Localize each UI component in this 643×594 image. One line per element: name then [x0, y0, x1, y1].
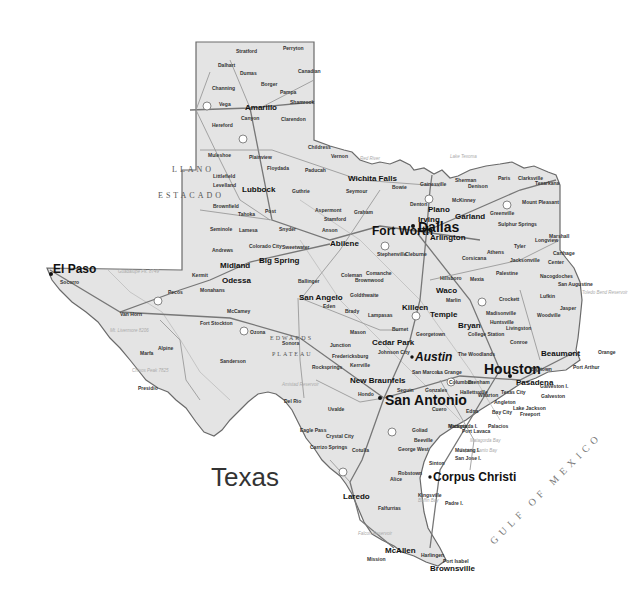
city-amarillo[interactable]: Amarillo — [245, 103, 277, 112]
city-austin[interactable]: Austin — [414, 350, 452, 364]
city-mission[interactable]: Mission — [367, 556, 386, 562]
city-odessa[interactable]: Odessa — [222, 276, 251, 285]
svg-text:Muleshoe: Muleshoe — [208, 152, 231, 158]
city-plano[interactable]: Plano — [428, 205, 450, 214]
city-el-paso[interactable]: El Paso — [53, 262, 96, 276]
city-big-spring[interactable]: Big Spring — [259, 256, 300, 265]
svg-text:Pecos: Pecos — [168, 289, 183, 295]
svg-text:Shamrock: Shamrock — [290, 99, 314, 105]
city-galveston[interactable]: Galveston — [541, 393, 565, 399]
city-laredo[interactable]: Laredo — [343, 492, 370, 501]
city-georgetown[interactable]: Georgetown — [416, 331, 445, 337]
city-texas-city[interactable]: Texas City — [501, 389, 526, 395]
svg-text:Brownwood: Brownwood — [355, 277, 384, 283]
region-label-estacado: ESTACADO — [158, 191, 224, 200]
city-garland[interactable]: Garland — [455, 212, 485, 221]
city-pasadena[interactable]: Pasadena — [516, 378, 554, 387]
svg-text:Pampa: Pampa — [280, 89, 297, 95]
svg-text:Angleton: Angleton — [494, 399, 516, 405]
svg-text:Mason: Mason — [350, 329, 366, 335]
svg-text:Kerrville: Kerrville — [350, 362, 370, 368]
svg-text:Levelland: Levelland — [213, 182, 236, 188]
padre-island-label: Padre I. — [445, 500, 464, 506]
city-fort-worth[interactable]: Fort Worth — [372, 224, 433, 238]
svg-text:Presidio: Presidio — [138, 385, 158, 391]
svg-text:Carrizo Springs: Carrizo Springs — [310, 444, 347, 450]
city-killeen[interactable]: Killeen — [402, 303, 428, 312]
city-lufkin[interactable]: Lufkin — [540, 293, 555, 299]
city-harlingen[interactable]: Harlingen — [421, 552, 444, 558]
svg-text:Perryton: Perryton — [283, 45, 304, 51]
city-mcallen[interactable]: McAllen — [385, 546, 416, 555]
city-corpus-christi[interactable]: Corpus Christi — [433, 470, 516, 484]
city-kingsville[interactable]: Kingsville — [418, 492, 442, 498]
svg-text:Freeport: Freeport — [520, 411, 541, 417]
city-port-arthur[interactable]: Port Arthur — [573, 364, 600, 370]
shield-i40 — [203, 102, 211, 110]
svg-text:Sonora: Sonora — [282, 340, 299, 346]
city-new-braunfels[interactable]: New Braunfels — [350, 376, 406, 385]
city-mckinney[interactable]: McKinney — [452, 197, 476, 203]
city-cedar-park[interactable]: Cedar Park — [372, 338, 415, 347]
svg-text:Mount Pleasant: Mount Pleasant — [522, 199, 559, 205]
city-san-angelo[interactable]: San Angelo — [299, 293, 343, 302]
svg-text:Tahoka: Tahoka — [238, 211, 255, 217]
city-irving[interactable]: Irving — [418, 215, 440, 224]
svg-text:Andrews: Andrews — [212, 247, 233, 253]
gulf-of-mexico-label: GULF OF MEXICO — [488, 430, 604, 546]
svg-text:Center: Center — [548, 259, 564, 265]
svg-text:Greenville: Greenville — [490, 210, 514, 216]
svg-text:Childress: Childress — [308, 144, 331, 150]
svg-text:Monahans: Monahans — [200, 287, 225, 293]
city-nacogdoches[interactable]: Nacogdoches — [540, 273, 573, 279]
city-beaumont[interactable]: Beaumont — [541, 349, 580, 358]
svg-text:Comanche: Comanche — [366, 270, 392, 276]
city-paris[interactable]: Paris — [498, 175, 510, 181]
svg-text:Goldthwaite: Goldthwaite — [350, 292, 379, 298]
city-temple[interactable]: Temple — [430, 310, 458, 319]
svg-text:Ballinger: Ballinger — [298, 278, 319, 284]
city-denton[interactable]: Denton — [410, 201, 427, 207]
svg-text:Livingston: Livingston — [506, 325, 531, 331]
svg-text:Crockett: Crockett — [499, 296, 520, 302]
svg-text:Sweetwater: Sweetwater — [282, 244, 310, 250]
svg-text:Beeville: Beeville — [414, 437, 433, 443]
svg-text:Seymour: Seymour — [346, 188, 367, 194]
city-midland[interactable]: Midland — [220, 261, 250, 270]
svg-text:Colorado City: Colorado City — [249, 243, 282, 249]
city-del-rio[interactable]: Del Rio — [284, 398, 301, 404]
city-tyler[interactable]: Tyler — [514, 243, 526, 249]
svg-text:Brownfield: Brownfield — [213, 203, 239, 209]
chisos-peak-label: Chisos Peak 7825 — [132, 368, 169, 373]
svg-text:Denison: Denison — [468, 183, 488, 189]
shield-i35-central — [412, 312, 420, 320]
svg-text:Gonzales: Gonzales — [425, 387, 447, 393]
city-wichita-falls[interactable]: Wichita Falls — [348, 174, 397, 183]
city-lubbock[interactable]: Lubbock — [242, 185, 276, 194]
svg-text:Rocksprings: Rocksprings — [312, 364, 343, 370]
svg-text:Bay City: Bay City — [492, 409, 512, 415]
city-abilene[interactable]: Abilene — [330, 239, 359, 248]
svg-text:San Augustine: San Augustine — [558, 281, 593, 287]
svg-text:Wharton: Wharton — [478, 392, 498, 398]
city-waco[interactable]: Waco — [436, 286, 457, 295]
city-the-woodlands[interactable]: The Woodlands — [458, 351, 495, 357]
city-arlington[interactable]: Arlington — [430, 233, 466, 242]
svg-text:Fort Stockton: Fort Stockton — [200, 320, 233, 326]
city-cleburne[interactable]: Cleburne — [405, 251, 427, 257]
svg-text:Eden: Eden — [323, 303, 335, 309]
svg-text:Anson: Anson — [322, 227, 338, 233]
region-label-plateau: PLATEAU — [272, 351, 313, 357]
svg-text:Corsicana: Corsicana — [462, 255, 486, 261]
city-bryan[interactable]: Bryan — [458, 321, 481, 330]
city-brownsville[interactable]: Brownsville — [430, 564, 475, 573]
svg-text:Littlefield: Littlefield — [213, 173, 235, 179]
city-college-station[interactable]: College Station — [468, 331, 504, 337]
svg-text:Graham: Graham — [354, 209, 373, 215]
svg-text:Jasper: Jasper — [560, 305, 576, 311]
shield-i10-central — [240, 327, 248, 335]
city-san-antonio[interactable]: San Antonio — [385, 392, 467, 408]
svg-text:Palestine: Palestine — [496, 270, 518, 276]
city-conroe[interactable]: Conroe — [510, 339, 528, 345]
svg-text:Brenham: Brenham — [468, 379, 490, 385]
